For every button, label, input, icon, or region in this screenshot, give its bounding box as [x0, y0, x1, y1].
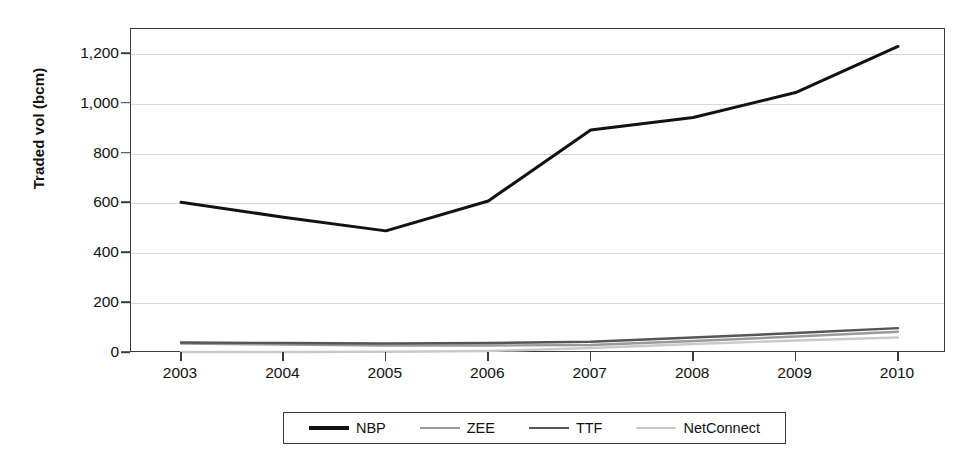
legend-swatch-zee [420, 427, 460, 430]
x-axis-tick-label: 2008 [675, 364, 709, 382]
y-axis-tick-label: 0 [55, 343, 119, 361]
x-axis-tick-mark [180, 352, 182, 361]
x-axis-tick-mark [795, 352, 797, 361]
y-axis-tick-mark [121, 351, 130, 353]
y-axis-tick-mark [121, 301, 130, 303]
legend-label: ZEE [467, 421, 495, 436]
legend-label: NetConnect [683, 421, 760, 436]
legend-swatch-nbp [309, 426, 349, 429]
x-axis-tick-label: 2009 [777, 364, 811, 382]
legend-label: TTF [576, 421, 603, 436]
legend-label: NBP [356, 421, 386, 436]
legend-entry-netconnect[interactable]: NetConnect [636, 421, 760, 436]
x-axis-tick-mark [897, 352, 899, 361]
x-axis-tick-mark [590, 352, 592, 361]
y-axis-tick-label: 1,000 [55, 94, 119, 112]
x-axis-tick-label: 2003 [163, 364, 197, 382]
series-line-nbp [181, 46, 898, 230]
y-axis-tick-label: 400 [55, 243, 119, 261]
y-axis-tick-label: 800 [55, 144, 119, 162]
x-axis-tick-mark [282, 352, 284, 361]
chart-legend: NBPZEETTFNetConnect [283, 412, 786, 444]
legend-entry-nbp[interactable]: NBP [309, 421, 386, 436]
y-axis-tick-mark [121, 252, 130, 254]
y-axis-tick-label: 1,200 [55, 44, 119, 62]
y-axis-tick-mark [121, 202, 130, 204]
legend-swatch-ttf [529, 427, 569, 430]
x-axis-tick-label: 2010 [880, 364, 914, 382]
y-axis-tick-mark [121, 52, 130, 54]
x-axis-tick-mark [487, 352, 489, 361]
x-axis-tick-label: 2005 [368, 364, 402, 382]
x-axis-tick-label: 2007 [572, 364, 606, 382]
legend-entry-zee[interactable]: ZEE [420, 421, 495, 436]
x-axis-tick-label: 2006 [470, 364, 504, 382]
x-axis-tick-mark [385, 352, 387, 361]
y-axis-tick-mark [121, 102, 130, 104]
y-axis-title: Traded vol (bcm) [30, 19, 47, 239]
legend-entry-ttf[interactable]: TTF [529, 421, 603, 436]
legend-swatch-netconnect [636, 427, 676, 430]
y-axis-tick-label: 200 [55, 293, 119, 311]
y-axis-tick-mark [121, 152, 130, 154]
plot-area [130, 28, 945, 352]
x-axis-tick-mark [692, 352, 694, 361]
series-lines [131, 29, 946, 353]
y-axis-tick-label: 600 [55, 193, 119, 211]
chart-figure: Traded vol (bcm) 02004006008001,0001,200… [0, 0, 969, 476]
x-axis-tick-label: 2004 [265, 364, 299, 382]
